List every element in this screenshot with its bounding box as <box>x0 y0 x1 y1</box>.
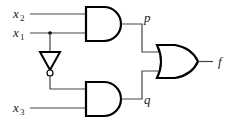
input-label-x2: x 2 <box>12 6 25 23</box>
inverter-bubble <box>47 70 53 76</box>
label-p: p <box>143 10 151 25</box>
svg-text:3: 3 <box>20 107 25 117</box>
svg-text:x: x <box>12 25 19 40</box>
svg-text:x: x <box>12 6 19 21</box>
not-gate <box>40 52 60 70</box>
label-q: q <box>144 92 151 107</box>
and-gate-2 <box>86 82 121 116</box>
svg-text:2: 2 <box>20 13 25 23</box>
input-label-x3: x 3 <box>12 100 25 117</box>
or-gate <box>157 45 198 78</box>
input-label-x1: x 1 <box>12 25 25 42</box>
and-gate-1 <box>86 7 121 41</box>
wire-p <box>121 24 160 52</box>
wire-not-x1 <box>50 76 86 89</box>
svg-text:x: x <box>12 100 19 115</box>
svg-text:1: 1 <box>20 32 25 42</box>
wire-q <box>121 71 160 99</box>
logic-circuit-diagram: x 2 x 1 x 3 p q f <box>0 0 238 124</box>
label-f: f <box>218 54 224 69</box>
